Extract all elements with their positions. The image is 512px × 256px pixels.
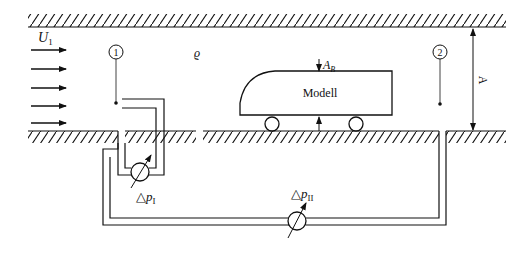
svg-text:2: 2 <box>438 47 443 58</box>
diagram-canvas: U1 ϱ 1 △pI △pII Modell <box>0 0 512 256</box>
bottom-wall <box>28 131 506 143</box>
station-2-probe: 2 <box>433 45 447 106</box>
flow-velocity-label: U1 <box>38 30 53 47</box>
top-wall <box>28 14 506 27</box>
station-1-probe: 1 <box>109 45 123 105</box>
model-label: Modell <box>303 86 338 100</box>
dp1-label: △pI <box>136 189 156 206</box>
pressure-gauge-1 <box>118 143 151 188</box>
pressure-line-2 <box>103 131 446 225</box>
area-label: AB <box>322 58 335 74</box>
flow-arrows <box>31 50 66 123</box>
pressure-gauge-2 <box>288 203 306 238</box>
height-label: A <box>476 76 490 85</box>
model-body <box>240 71 392 131</box>
dp2-label: △pII <box>291 186 314 203</box>
density-label: ϱ <box>194 46 200 60</box>
svg-text:1: 1 <box>114 47 119 58</box>
